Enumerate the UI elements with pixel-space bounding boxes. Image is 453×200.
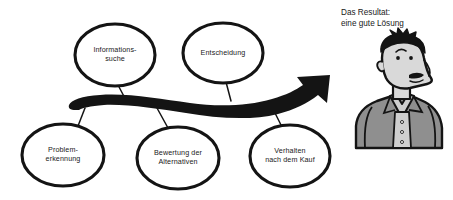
connector-entscheidung	[226, 82, 231, 101]
node-circle-entscheidung[interactable]	[183, 23, 263, 83]
connector-bewertung	[157, 108, 168, 128]
node-circle-verhalten[interactable]	[250, 125, 330, 187]
diagram-illustration	[0, 0, 453, 200]
node-circle-bewertung[interactable]	[137, 127, 219, 189]
result-caption: Das Resultat: eine gute Lösung	[341, 8, 453, 29]
eye-left	[396, 56, 400, 60]
ear-shape	[377, 61, 384, 71]
button-icon-bottom	[401, 141, 404, 144]
connector-problemerkennung	[78, 108, 85, 126]
node-circle-problemerkennung[interactable]	[22, 124, 104, 186]
diagram-canvas: Informations- suche Entscheidung Problem…	[0, 0, 453, 200]
businessman-figure	[356, 28, 442, 148]
node-circle-informationssuche[interactable]	[75, 24, 155, 86]
button-icon-middle	[401, 131, 404, 134]
button-icon-top	[401, 121, 404, 124]
eye-right	[409, 56, 413, 60]
